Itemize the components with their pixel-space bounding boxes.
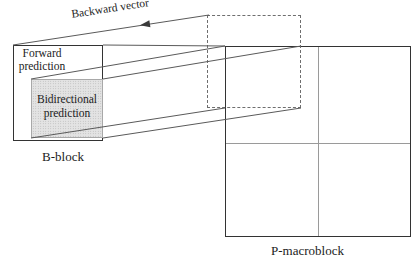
backward-vector-line (13, 15, 209, 45)
forward-prediction-label-line2: prediction (19, 60, 66, 72)
bidirectional-prediction-label: Bidirectional prediction (33, 93, 101, 120)
prediction-diagram: Backward vector Forward prediction Bidir… (0, 0, 415, 262)
backward-vector-label: Backward vector (55, 0, 166, 22)
backward-reference-dashed-block (207, 15, 301, 108)
p-macroblock-label: P-macroblock (250, 243, 365, 259)
p-macroblock-horizontal-midline (226, 143, 411, 144)
bidirectional-prediction-label-line2: prediction (44, 107, 91, 119)
bidirectional-prediction-label-line1: Bidirectional (37, 93, 97, 105)
backward-vector-arrowhead (139, 20, 150, 29)
b-block-label: B-block (23, 149, 103, 165)
forward-prediction-label-line1: Forward (23, 47, 62, 59)
forward-prediction-label: Forward prediction (12, 47, 72, 73)
p-macroblock-vertical-midline (318, 47, 319, 237)
